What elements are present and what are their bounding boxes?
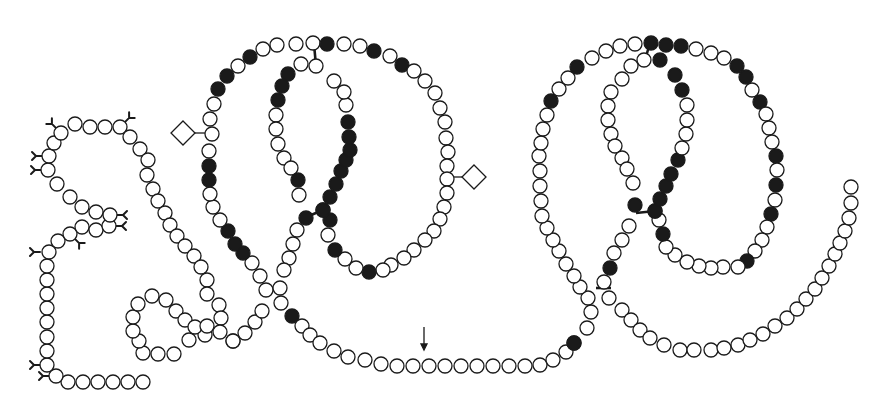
disulfide-bonds	[264, 43, 655, 288]
filled-residue	[769, 149, 783, 163]
open-residue	[126, 310, 140, 324]
open-residue	[103, 208, 117, 222]
filled-residue	[644, 36, 658, 50]
open-residue	[40, 259, 54, 273]
open-residue	[274, 296, 288, 310]
open-residue	[273, 281, 287, 295]
open-residue	[83, 120, 97, 134]
open-residue	[309, 59, 323, 73]
open-residue	[842, 211, 856, 225]
filled-residue	[343, 143, 357, 157]
open-residue	[205, 127, 219, 141]
open-residue	[622, 219, 636, 233]
open-residue	[256, 42, 270, 56]
open-residue	[844, 180, 858, 194]
glycan-branch-icon	[75, 239, 85, 249]
open-residue	[141, 153, 155, 167]
open-residue	[76, 375, 90, 389]
open-residue	[203, 187, 217, 201]
open-residue	[643, 331, 657, 345]
open-residue	[40, 344, 54, 358]
open-residue	[601, 99, 615, 113]
open-residue	[226, 334, 240, 348]
open-residue	[126, 324, 140, 338]
open-residue	[136, 375, 150, 389]
open-residue	[294, 57, 308, 71]
open-residue	[89, 223, 103, 237]
open-residue	[580, 321, 594, 335]
open-residue	[123, 130, 137, 144]
open-residue	[390, 359, 404, 373]
filled-residue	[362, 265, 376, 279]
open-residue	[167, 347, 181, 361]
open-residue	[406, 359, 420, 373]
filled-residue	[764, 207, 778, 221]
glycan-branch-icon	[46, 118, 56, 128]
filled-residue	[659, 38, 673, 52]
open-residue	[358, 353, 372, 367]
open-residue	[615, 72, 629, 86]
open-residue	[535, 209, 549, 223]
open-residue	[407, 64, 421, 78]
open-residue	[397, 251, 411, 265]
open-residue	[231, 59, 245, 73]
filled-residue	[769, 178, 783, 192]
open-residue	[768, 319, 782, 333]
filled-residue	[299, 211, 313, 225]
open-residue	[418, 74, 432, 88]
open-residue	[182, 333, 196, 347]
open-residue	[534, 136, 548, 150]
filled-residue	[291, 173, 305, 187]
open-residue	[341, 350, 355, 364]
open-residue	[40, 315, 54, 329]
glycan-branch-icon	[31, 166, 41, 174]
open-residue	[604, 85, 618, 99]
open-residue	[567, 269, 581, 283]
open-residue	[428, 86, 442, 100]
open-residue	[756, 327, 770, 341]
open-residue	[518, 359, 532, 373]
filled-residue	[674, 39, 688, 53]
open-residue	[40, 330, 54, 344]
open-residue	[63, 190, 77, 204]
open-residue	[313, 336, 327, 350]
open-residue	[486, 359, 500, 373]
open-residue	[438, 359, 452, 373]
open-residue	[745, 83, 759, 97]
open-residue	[75, 220, 89, 234]
open-residue	[546, 353, 560, 367]
open-residue	[121, 375, 135, 389]
open-residue	[433, 101, 447, 115]
filled-residue	[243, 50, 257, 64]
open-residue	[765, 135, 779, 149]
open-residue	[194, 260, 208, 274]
open-residue	[50, 177, 64, 191]
open-residue	[292, 188, 306, 202]
open-residue	[620, 162, 634, 176]
open-residue	[159, 293, 173, 307]
open-residue	[680, 98, 694, 112]
open-residue	[131, 297, 145, 311]
open-residue	[762, 121, 776, 135]
open-residue	[200, 287, 214, 301]
open-residue	[597, 275, 611, 289]
open-residue	[679, 127, 693, 141]
open-residue	[454, 359, 468, 373]
filled-residue	[228, 237, 242, 251]
filled-residue	[656, 227, 670, 241]
open-residue	[40, 273, 54, 287]
open-residue	[534, 194, 548, 208]
protein-chain-diagram	[0, 0, 887, 409]
residue-beads	[40, 36, 858, 389]
filled-residue	[275, 79, 289, 93]
glycan-branch-icon	[32, 152, 42, 160]
open-residue	[42, 149, 56, 163]
open-residue	[613, 39, 627, 53]
open-residue	[40, 358, 54, 372]
filled-residue	[570, 60, 584, 74]
open-residue	[289, 37, 303, 51]
open-residue	[687, 343, 701, 357]
open-residue	[680, 113, 694, 127]
open-residue	[540, 108, 554, 122]
filled-residue	[603, 261, 617, 275]
